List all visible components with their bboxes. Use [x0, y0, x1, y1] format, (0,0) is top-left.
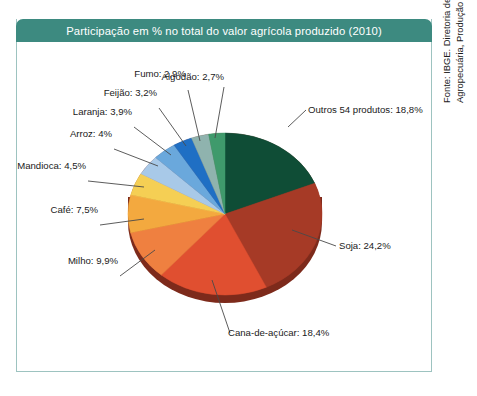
- slice-label-soja: Soja: 24,2%: [339, 241, 391, 251]
- slice-label-milho: Milho: 9,9%: [16, 256, 118, 266]
- slice-label-fumo: Fumo: 2,9%: [16, 69, 186, 79]
- leader-line-laranja: [134, 127, 171, 155]
- source-note: Fonte: IBGE. Diretoria de Pesquisas, Coo…: [441, 0, 466, 103]
- pie-slices-group: [128, 133, 322, 295]
- slice-label-arroz: Arroz: 4%: [16, 129, 112, 139]
- leader-line-fumo: [188, 90, 200, 141]
- pie-chart-plot-area: Algodão: 2,7% Fumo: 2,9% Feijão: 3,2% La…: [16, 42, 432, 372]
- page-title: Participação em % no total do valor agrí…: [66, 25, 382, 37]
- slice-label-cana: Cana-de-açúcar: 18,4%: [228, 328, 329, 338]
- chart-title-bar: Participação em % no total do valor agrí…: [16, 19, 432, 42]
- slice-label-outros: Outros 54 produtos: 18,8%: [308, 105, 423, 115]
- slice-label-feijao: Feijão: 3,2%: [16, 88, 157, 98]
- slice-label-cafe: Café: 7,5%: [16, 205, 98, 215]
- slice-label-laranja: Laranja: 3,9%: [16, 107, 132, 117]
- leader-line-feijao: [159, 108, 186, 146]
- leader-line-outros: [288, 110, 306, 127]
- slice-label-mandioca: Mandioca: 4,5%: [16, 161, 86, 171]
- leader-line-arroz: [114, 149, 158, 166]
- leader-line-algodao: [215, 87, 224, 138]
